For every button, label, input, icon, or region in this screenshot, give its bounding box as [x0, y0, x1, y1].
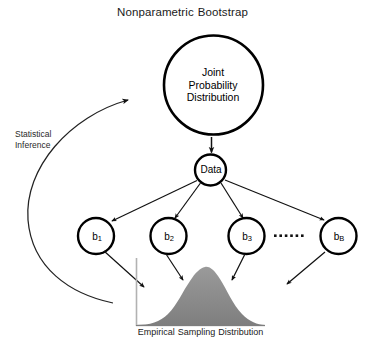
- bB-subscript: B: [339, 234, 344, 243]
- jpd-label-line-3: Distribution: [163, 91, 263, 104]
- b1-base: b: [92, 231, 98, 242]
- caption-word-1: Empirical: [138, 327, 175, 337]
- arrow-bB-to-distribution: [287, 252, 325, 284]
- diagram-title: NonparametricBootstrap: [0, 6, 365, 18]
- caption-word-3: Distribution: [218, 327, 263, 337]
- b2-base: b: [164, 231, 170, 242]
- bootstrap-sample-label-b3: b3: [227, 231, 267, 244]
- b1-subscript: 1: [98, 234, 102, 243]
- joint-probability-distribution-label: Joint Probability Distribution: [163, 66, 263, 104]
- b3-subscript: 3: [248, 234, 252, 243]
- statistical-inference-line-1: Statistical: [15, 129, 73, 140]
- ellipsis-icon: [274, 234, 304, 237]
- bootstrap-sample-label-b2: b2: [149, 231, 189, 244]
- bootstrap-sample-label-b1: b1: [77, 231, 117, 244]
- title-word-2: Bootstrap: [198, 6, 248, 18]
- title-word-1: Nonparametric: [117, 6, 194, 18]
- bootstrap-diagram-canvas: [0, 0, 365, 355]
- bootstrap-sample-label-bB: bB: [319, 231, 359, 244]
- jpd-label-line-1: Joint: [163, 66, 263, 79]
- b2-subscript: 2: [170, 234, 174, 243]
- caption-word-2: Sampling: [178, 327, 216, 337]
- sampling-distribution-caption: EmpiricalSamplingDistribution: [128, 327, 273, 337]
- arrow-data-to-b3: [221, 183, 243, 218]
- b3-base: b: [242, 231, 248, 242]
- arrow-data-to-b1: [112, 181, 197, 222]
- data-node-label: Data: [186, 164, 236, 176]
- statistical-inference-line-2: Inference: [15, 140, 73, 151]
- arrow-data-to-b2: [175, 183, 201, 218]
- jpd-label-line-2: Probability: [163, 79, 263, 92]
- statistical-inference-label: Statistical Inference: [15, 129, 73, 150]
